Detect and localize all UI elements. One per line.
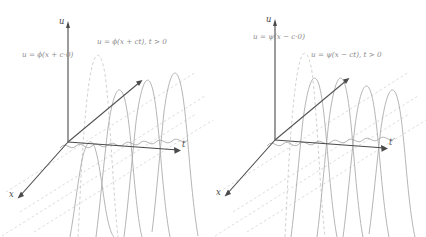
- x-axis: [227, 140, 275, 194]
- wave-profiles: [60, 73, 198, 237]
- evolved-profile-label: u = ϕ(x + ct), t > 0: [97, 38, 167, 45]
- wave-profile: [96, 90, 142, 237]
- t-axis-label: t: [182, 140, 185, 148]
- u-axis-arrowhead: [66, 21, 70, 28]
- x-axis-label: x: [9, 190, 14, 198]
- wave-profile: [343, 86, 389, 237]
- x-axis: [20, 142, 68, 196]
- u-axis-label: u: [266, 15, 271, 23]
- t-axis-arrowhead: [174, 147, 181, 154]
- evolved-profile-label: u = ψ(x − ct), t > 0: [311, 51, 382, 58]
- u-axis-label: u: [59, 17, 64, 25]
- wave-profile: [291, 78, 337, 237]
- characteristic-lines: [215, 72, 426, 236]
- initial-profile-label: u = ϕ(x + c·0): [22, 51, 73, 58]
- characteristic-ray: [68, 82, 140, 142]
- wave-profile: [70, 142, 114, 237]
- wave-profiles: [267, 78, 415, 237]
- axis-lines: [227, 22, 385, 194]
- x-axis-label: x: [216, 188, 221, 196]
- left-travelling-wave-diagram: u t x u = ϕ(x + c·0) u = ϕ(x + ct), t > …: [0, 0, 213, 237]
- left-panel-canvas: [0, 0, 213, 237]
- characteristic-ray: [275, 80, 347, 140]
- initial-wave-profile: [285, 53, 325, 237]
- wave-profile: [124, 80, 170, 237]
- right-travelling-wave-diagram: u t x u = ψ(x − c·0) u = ψ(x − ct), t > …: [213, 0, 426, 237]
- wave-ripple-train: [267, 137, 395, 146]
- wave-profile: [369, 90, 415, 237]
- t-axis-label: t: [389, 138, 392, 146]
- wave-ripple-train: [60, 139, 188, 148]
- wave-profile: [152, 73, 198, 236]
- u-axis-arrowhead: [273, 19, 277, 26]
- right-panel-canvas: [213, 0, 426, 237]
- wave-propagation-figure: u t x u = ϕ(x + c·0) u = ϕ(x + ct), t > …: [0, 0, 426, 237]
- initial-profile-label: u = ψ(x − c·0): [253, 33, 305, 40]
